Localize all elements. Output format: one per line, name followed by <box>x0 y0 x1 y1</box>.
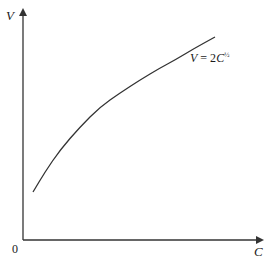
x-axis-label: C <box>254 245 263 258</box>
equation-c: C <box>216 51 224 65</box>
origin-label: 0 <box>12 243 18 255</box>
chart-figure <box>0 0 277 261</box>
curve-v-2c-half <box>33 37 215 192</box>
curve-equation-label: V = 2C½ <box>190 52 229 64</box>
y-axis-label: V <box>6 9 14 22</box>
equation-eq: = 2 <box>197 51 216 65</box>
equation-exponent: ½ <box>224 51 229 59</box>
